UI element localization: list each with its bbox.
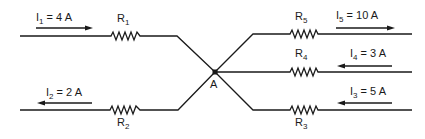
arrowhead-i4-icon bbox=[337, 64, 345, 69]
junction-label: A bbox=[210, 79, 217, 90]
current-label-i3: I3 = 5 A bbox=[350, 86, 386, 100]
resistor-label-r1: R1 bbox=[117, 13, 129, 27]
circuit-diagram: I1 = 4 A R1 I2 = 2 A R2 R5 I5 = 10 A R4 … bbox=[0, 0, 425, 139]
arrowhead-i1-icon bbox=[85, 26, 93, 31]
current-label-i4: I4 = 3 A bbox=[350, 48, 386, 62]
wire-branch-1 bbox=[20, 32, 215, 72]
resistor-label-r2: R2 bbox=[117, 117, 129, 131]
arrowhead-i5-icon bbox=[387, 26, 395, 31]
resistor-label-r5: R5 bbox=[295, 11, 307, 25]
arrowhead-i3-icon bbox=[337, 101, 345, 106]
wire-branch-4 bbox=[215, 68, 412, 76]
current-label-i5: I5 = 10 A bbox=[336, 10, 378, 24]
current-label-i2: I2 = 2 A bbox=[46, 87, 82, 101]
current-label-i1: I1 = 4 A bbox=[36, 12, 72, 26]
resistor-label-r4: R4 bbox=[295, 48, 307, 62]
arrowhead-i2-icon bbox=[37, 101, 45, 106]
resistor-label-r3: R3 bbox=[295, 117, 307, 131]
junction-node-icon bbox=[213, 70, 218, 75]
